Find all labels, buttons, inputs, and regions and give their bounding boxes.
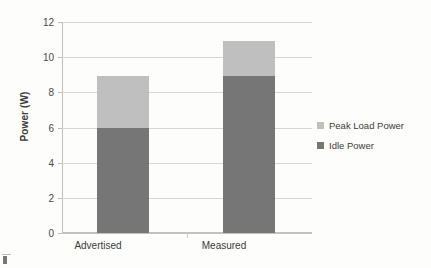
legend-swatch-peak-load-power xyxy=(317,122,324,129)
bar-advertised[interactable] xyxy=(97,76,149,234)
y-tick-label-2: 2 xyxy=(30,192,54,203)
scan-artifact-mark xyxy=(3,256,7,264)
y-axis-tick-labels: 12 10 8 6 4 2 0 xyxy=(28,22,54,233)
y-tick-label-6: 6 xyxy=(30,122,54,133)
legend-item-idle-power[interactable]: Idle Power xyxy=(317,135,431,155)
plot-area xyxy=(62,22,312,233)
y-tick-label-8: 8 xyxy=(30,87,54,98)
legend-item-peak-load-power[interactable]: Peak Load Power xyxy=(317,115,431,135)
legend-label-idle-power: Idle Power xyxy=(329,140,374,151)
bar-segment-peak-load-power-measured[interactable] xyxy=(223,41,275,76)
x-tick-label-measured: Measured xyxy=(164,240,284,251)
x-axis-category-divider xyxy=(187,233,188,238)
bar-segment-idle-power-measured[interactable] xyxy=(223,76,275,234)
y-tick-label-12: 12 xyxy=(30,17,54,28)
y-tick-label-0: 0 xyxy=(30,228,54,239)
y-tick-label-4: 4 xyxy=(30,157,54,168)
bar-segment-peak-load-power-advertised[interactable] xyxy=(97,76,149,129)
chart-figure: Power (W) 12 10 8 6 4 2 0 xyxy=(0,0,431,268)
y-tick-label-10: 10 xyxy=(30,52,54,63)
scan-artifact-line xyxy=(2,254,11,255)
x-tick-label-advertised: Advertised xyxy=(38,240,158,251)
legend-swatch-idle-power xyxy=(317,142,324,149)
gridline-12 xyxy=(62,22,312,23)
legend-label-peak-load-power: Peak Load Power xyxy=(329,120,404,131)
bar-measured[interactable] xyxy=(223,41,275,234)
chart-legend: Peak Load Power Idle Power xyxy=(317,115,431,155)
bar-segment-idle-power-advertised[interactable] xyxy=(97,128,149,233)
